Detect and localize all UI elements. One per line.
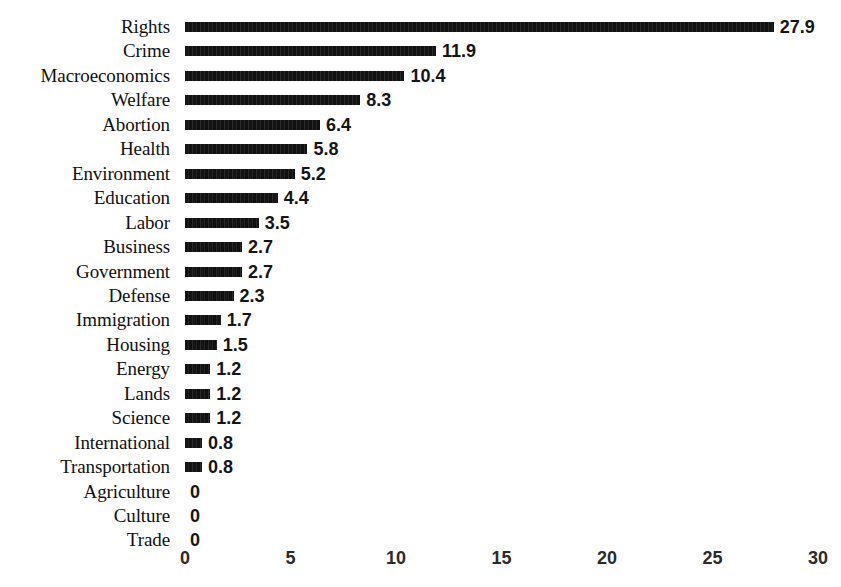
bar-value-label: 1.2 [216,357,241,381]
bar-row: Education4.4 [0,186,841,210]
bar-row: Environment5.2 [0,162,841,186]
category-label: Defense [0,284,170,308]
bar [185,46,436,56]
category-label: Health [0,137,170,161]
category-label: Government [0,260,170,284]
bar-row: Housing1.5 [0,333,841,357]
bar-value-label: 1.2 [216,382,241,406]
bar-value-label: 0.8 [208,455,233,479]
bar-row: Labor3.5 [0,211,841,235]
bar-value-label: 5.8 [313,137,338,161]
bar [185,120,320,130]
category-label: Abortion [0,113,170,137]
bar [185,438,202,448]
bar-value-label: 4.4 [284,186,309,210]
bar-value-label: 1.7 [227,308,252,332]
category-label: Transportation [0,455,170,479]
plot-area: Rights27.9Crime11.9Macroeconomics10.4Wel… [0,0,841,534]
x-tick-label: 0 [180,548,190,569]
bar-value-label: 2.3 [240,284,265,308]
x-tick-label: 15 [491,548,511,569]
bar-row: Health5.8 [0,137,841,161]
category-label: Agriculture [0,480,170,504]
bar [185,462,202,472]
bar-value-label: 0 [190,504,200,528]
category-label: Environment [0,162,170,186]
bar-row: Culture0 [0,504,841,528]
category-label: Education [0,186,170,210]
category-label: Welfare [0,88,170,112]
x-tick-label: 25 [702,548,722,569]
bar-row: Energy1.2 [0,357,841,381]
bar [185,364,210,374]
category-label: Immigration [0,308,170,332]
category-label: Culture [0,504,170,528]
category-label: Energy [0,357,170,381]
bar [185,413,210,423]
bar-row: Abortion6.4 [0,113,841,137]
bar-row: Welfare8.3 [0,88,841,112]
bar-value-label: 10.4 [410,64,445,88]
bar-row: Business2.7 [0,235,841,259]
x-tick-label: 30 [808,548,828,569]
bar-row: Government2.7 [0,260,841,284]
bar-value-label: 3.5 [265,211,290,235]
bar [185,169,295,179]
bar-row: International0.8 [0,431,841,455]
bar-row: Defense2.3 [0,284,841,308]
bar-value-label: 0.8 [208,431,233,455]
x-axis: 051015202530 [0,534,841,587]
category-label: Lands [0,382,170,406]
bar [185,218,259,228]
bar-value-label: 27.9 [780,15,815,39]
bar-row: Transportation0.8 [0,455,841,479]
bar [185,291,234,301]
category-label: Science [0,406,170,430]
bar [185,95,360,105]
bar [185,340,217,350]
bar [185,242,242,252]
bar-row: Rights27.9 [0,15,841,39]
bar-value-label: 2.7 [248,260,273,284]
bar-value-label: 0 [190,480,200,504]
bar [185,315,221,325]
x-tick-label: 5 [285,548,295,569]
bar-row: Science1.2 [0,406,841,430]
bar-value-label: 6.4 [326,113,351,137]
category-label: Rights [0,15,170,39]
bar-value-label: 11.9 [442,39,476,63]
bar [185,22,774,32]
bar-value-label: 8.3 [366,88,391,112]
bar-row: Macroeconomics10.4 [0,64,841,88]
bar-value-label: 2.7 [248,235,273,259]
category-label: Crime [0,39,170,63]
bar [185,267,242,277]
bar-value-label: 1.5 [223,333,248,357]
x-tick-label: 10 [386,548,406,569]
category-label: Labor [0,211,170,235]
bar-row: Crime11.9 [0,39,841,63]
bar-value-label: 5.2 [301,162,326,186]
bar [185,71,404,81]
x-tick-label: 20 [597,548,617,569]
category-label: Macroeconomics [0,64,170,88]
bar [185,144,307,154]
category-label: Housing [0,333,170,357]
bar [185,389,210,399]
bar [185,193,278,203]
category-label: Business [0,235,170,259]
bar-value-label: 1.2 [216,406,241,430]
bar-row: Lands1.2 [0,382,841,406]
bar-chart: Rights27.9Crime11.9Macroeconomics10.4Wel… [0,0,841,587]
bar-row: Agriculture0 [0,480,841,504]
bar-row: Immigration1.7 [0,308,841,332]
category-label: International [0,431,170,455]
